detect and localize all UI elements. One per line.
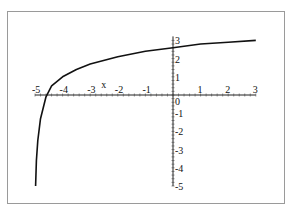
x-tick-label: -5	[32, 84, 40, 95]
line-chart: -5-4-3-2-1123-5-4-3-2-10123x	[0, 0, 291, 214]
y-tick-label: -1	[175, 108, 183, 119]
y-tick-label: -4	[175, 163, 183, 174]
x-tick-label: -4	[60, 84, 68, 95]
y-tick-label: -3	[175, 145, 183, 156]
y-tick-label: 0	[175, 96, 180, 107]
y-tick-label: 3	[175, 35, 180, 46]
y-tick-label: 1	[175, 72, 180, 83]
data-curve	[36, 40, 256, 186]
x-tick-label: -1	[142, 84, 150, 95]
x-tick-label: -2	[115, 84, 123, 95]
y-tick-label: 2	[175, 54, 180, 65]
x-tick-label: 1	[198, 84, 203, 95]
x-tick-label: 3	[253, 84, 258, 95]
y-tick-label: -2	[175, 126, 183, 137]
x-axis-label: x	[101, 79, 106, 90]
x-tick-label: 2	[225, 84, 230, 95]
x-tick-label: -3	[87, 84, 95, 95]
y-tick-label: -5	[175, 181, 183, 192]
